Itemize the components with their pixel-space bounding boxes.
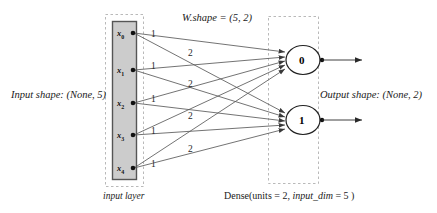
input-layer-caption: input layer [103, 192, 144, 202]
output-shape-label: Output shape: (None, 2) [320, 90, 422, 101]
input-node-label-x2: x2 [117, 99, 124, 110]
weight-label-6: 1 [151, 127, 156, 137]
edge-x1-n1 [134, 70, 285, 117]
edge-x1-n0 [134, 57, 285, 70]
edge-x3-n1 [134, 125, 285, 135]
diagram-canvas [0, 0, 437, 213]
neural-network-diagram: Input shape: (None, 5) Output shape: (No… [0, 0, 437, 213]
dense-layer-dashed-box [269, 17, 319, 184]
input-node-label-x0: x0 [117, 29, 124, 40]
edge-x0-n1 [134, 33, 285, 113]
input-shape-label: Input shape: (None, 5) [11, 90, 106, 101]
weight-shape-label: W.shape = (5, 2) [182, 13, 252, 24]
dense-neuron-label-1: 1 [299, 115, 305, 126]
edge-x3-n0 [134, 65, 285, 135]
edge-x2-n0 [134, 61, 285, 103]
edge-x0-n0 [134, 33, 285, 52]
dense-caption-prefix: Dense(units = 2, [224, 190, 292, 201]
input-node-dot-x4 [131, 166, 136, 171]
input-node-label-x1: x1 [117, 66, 124, 77]
input-node-label-x3: x3 [117, 131, 124, 142]
weight-label-1: 2 [188, 49, 193, 59]
input-node-dot-x3 [131, 133, 136, 138]
input-node-dot-x1 [131, 68, 136, 73]
weight-label-7: 2 [188, 145, 193, 155]
edge-x4-n1 [134, 129, 285, 168]
weight-edges [134, 33, 285, 168]
input-node-dot-x0 [131, 31, 136, 36]
weight-label-3: 2 [188, 80, 193, 90]
input-node-label-x4: x4 [117, 164, 124, 175]
input-node-dot-x2 [131, 101, 136, 106]
dense-neuron-label-0: 0 [299, 55, 305, 66]
dense-layer-caption: Dense(units = 2, input_dim = 5 ) [224, 191, 354, 201]
weight-label-0: 1 [151, 30, 156, 40]
dense-caption-input-dim: input_dim [292, 190, 333, 201]
weight-label-8: 1 [151, 160, 156, 170]
weight-label-4: 1 [151, 95, 156, 105]
dense-caption-suffix: = 5 ) [333, 190, 354, 201]
weight-label-2: 1 [151, 62, 156, 72]
weight-label-5: 2 [188, 112, 193, 122]
